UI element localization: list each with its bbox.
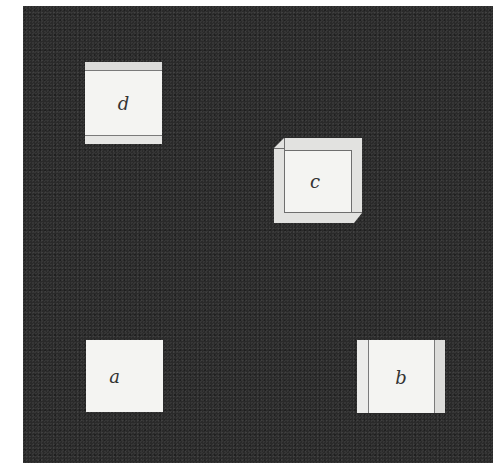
back-edge-vertical xyxy=(284,138,285,150)
square-c: c xyxy=(274,138,362,223)
top-band xyxy=(85,62,162,70)
square-b: b xyxy=(357,340,445,413)
label-d: d xyxy=(85,93,162,114)
square-a: a xyxy=(86,340,163,412)
top-edge-line xyxy=(85,70,162,71)
square-d: d xyxy=(85,62,162,144)
label-c: c xyxy=(268,170,362,191)
label-a: a xyxy=(66,366,163,387)
label-b: b xyxy=(357,366,445,387)
bottom-band xyxy=(85,136,162,144)
front-edge-right xyxy=(351,212,362,213)
back-edge-left xyxy=(274,148,284,149)
